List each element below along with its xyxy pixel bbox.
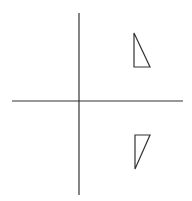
lower-triangle: [135, 135, 150, 169]
diagram-canvas: [0, 0, 192, 201]
coordinate-diagram: [0, 0, 192, 201]
upper-triangle: [134, 33, 150, 67]
